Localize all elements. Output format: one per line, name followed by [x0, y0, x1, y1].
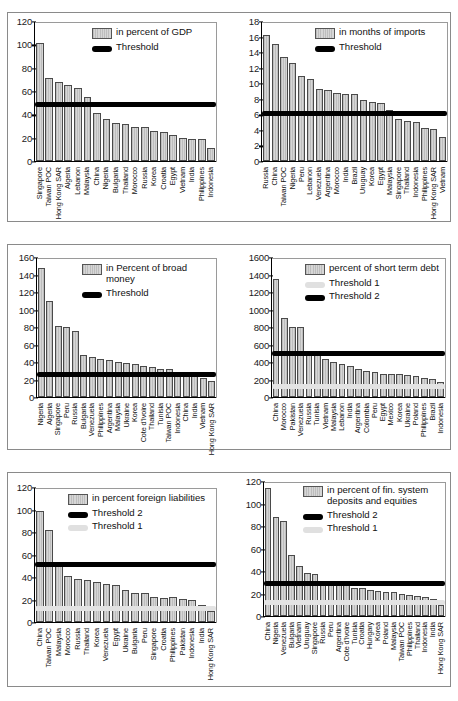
- bar: [351, 94, 358, 161]
- y-axis-tick-label: 60: [251, 545, 261, 555]
- x-axis-tick-label: Algeria: [65, 167, 72, 189]
- bar: [307, 79, 314, 161]
- legend-label: in Percent of broad money: [106, 262, 212, 285]
- x-axis-label-cell: Algeria: [64, 165, 74, 166]
- x-axis-labels: RussiaChinaTaiwan POCNigeriaPeruLebanonV…: [262, 165, 447, 166]
- x-axis-label-cell: Malaysia: [114, 401, 123, 402]
- bar-cell: [288, 482, 296, 616]
- bar-cell: [271, 22, 280, 161]
- x-axis-tick-label: Nigeria: [103, 167, 110, 189]
- x-axis-tick-label: Bulgaria: [131, 628, 138, 654]
- x-axis-tick-label: Korea: [396, 403, 403, 422]
- x-axis-label-cell: Vietnam: [321, 401, 329, 402]
- x-axis-tick-label: Philippines: [170, 628, 177, 662]
- x-axis-label-cell: Bulgaria: [111, 165, 121, 166]
- chart-grid: 020406080100120SingaporeTaiwan POCHong K…: [0, 0, 458, 701]
- legend-item: in percent of GDP: [92, 26, 212, 39]
- legend-item: Threshold 2: [305, 290, 443, 301]
- y-axis-tick-label: 100: [17, 41, 32, 51]
- x-axis-label-cell: Algeria: [46, 401, 55, 402]
- x-axis-tick-label: Lebanon: [307, 167, 314, 195]
- bar: [38, 268, 45, 397]
- x-axis-tick-label: Thailand: [122, 167, 129, 194]
- x-axis-label-cell: Philippines: [421, 165, 430, 166]
- bar: [64, 576, 72, 622]
- legend-item: Threshold 1: [305, 277, 443, 288]
- legend-label: Threshold 2: [92, 507, 143, 518]
- bar: [406, 595, 412, 616]
- x-axis-tick-label: China: [93, 167, 100, 186]
- x-axis-label-cell: Morocco: [280, 401, 288, 402]
- x-axis-label-cell: Singapore: [149, 626, 159, 627]
- y-axis-tick-label: 120: [17, 483, 32, 493]
- x-axis-tick-label: Morocco: [65, 628, 72, 655]
- x-axis-tick-label: Russia: [141, 167, 148, 189]
- x-axis-label-cell: Indonesia: [412, 165, 421, 166]
- x-axis-tick-label: Vietnam: [179, 167, 186, 193]
- bar: [55, 565, 63, 622]
- x-axis-label-cell: Philippines: [420, 401, 428, 402]
- x-axis-label-cell: Egypt: [111, 626, 121, 627]
- x-axis-tick-label: Cote d'Ivoire: [140, 403, 147, 442]
- bar: [74, 579, 82, 622]
- threshold-line: [272, 351, 445, 356]
- y-axis-tick-label: 10: [249, 79, 259, 89]
- x-axis-label-cell: Tunisia: [313, 401, 321, 402]
- x-axis-label-cell: Vietnam: [178, 165, 188, 166]
- legend: in months of importsThreshold: [315, 26, 445, 54]
- legend-swatch-bar-icon: [305, 264, 325, 275]
- legend-label: Threshold: [106, 287, 149, 298]
- x-axis-tick-label: Brazil: [429, 403, 436, 421]
- bar: [112, 585, 120, 622]
- legend-swatch-threshold-dark-icon: [315, 43, 335, 52]
- x-axis-label-cell: Korea: [131, 401, 140, 402]
- y-axis-tick-label: 600: [254, 341, 269, 351]
- legend-swatch-bar-icon: [315, 28, 335, 39]
- x-axis-label-cell: Poland: [412, 401, 420, 402]
- legend-swatch-bar-icon: [303, 486, 323, 497]
- x-axis-label-cell: Taiwan POC: [45, 165, 55, 166]
- x-axis-tick-label: Indonesia: [437, 403, 444, 434]
- x-axis-label-cell: Russia: [319, 620, 327, 621]
- bar-cell: [45, 488, 55, 622]
- x-axis-tick-label: Egypt: [112, 628, 119, 646]
- bar: [208, 381, 215, 397]
- bar: [296, 566, 302, 616]
- x-axis-tick-label: Philippines: [421, 167, 428, 201]
- x-axis-tick-label: Hong Kong SAR: [55, 167, 62, 219]
- x-axis-tick-label: Malaysia: [114, 403, 121, 431]
- x-axis-label-cell: Korea: [396, 401, 404, 402]
- plot-area: 024681012141618RussiaChinaTaiwan POCNige…: [261, 22, 447, 162]
- y-axis-tick-label: 80: [22, 64, 32, 74]
- bar-cell: [264, 482, 272, 616]
- x-axis-label-cell: Hong Kong SAR: [207, 626, 217, 627]
- y-axis-tick-label: 40: [22, 111, 32, 121]
- bar: [115, 362, 122, 397]
- x-axis-label-cell: Mexico: [387, 401, 395, 402]
- y-axis-tick-label: 40: [24, 358, 34, 368]
- bar: [342, 94, 349, 161]
- legend: in percent of fin. system deposits and e…: [303, 484, 443, 535]
- x-axis-label-cell: Thailand: [121, 165, 131, 166]
- y-axis-tick-label: 20: [24, 376, 34, 386]
- x-axis-label-cell: Hong Kong SAR: [437, 620, 445, 621]
- y-axis-tick-label: 200: [254, 376, 269, 386]
- x-axis-label-cell: Croatia: [159, 626, 169, 627]
- bar: [46, 301, 53, 397]
- x-axis-label-cell: Morocco: [130, 165, 140, 166]
- threshold-line: [272, 384, 445, 389]
- y-axis-tick-label: 1400: [249, 271, 269, 281]
- x-axis-label-cell: Nigeria: [102, 165, 112, 166]
- x-axis-tick-label: Vietnam: [439, 167, 446, 193]
- x-axis-tick-label: Philippines: [406, 622, 413, 656]
- y-axis-tick-label: 80: [24, 323, 34, 333]
- x-axis-tick-label: Singapore: [36, 167, 43, 199]
- x-axis-tick-label: India: [189, 167, 196, 182]
- x-axis-label-cell: Colombia: [363, 401, 371, 402]
- x-axis-label-cell: Uruguay: [303, 620, 311, 621]
- legend-label: in months of imports: [339, 26, 425, 37]
- x-axis-label-cell: Ukraine: [122, 401, 131, 402]
- bar: [207, 148, 215, 161]
- x-axis-label-cell: Cote d'Ivoire: [139, 401, 148, 402]
- y-axis-tick-label: 60: [24, 341, 34, 351]
